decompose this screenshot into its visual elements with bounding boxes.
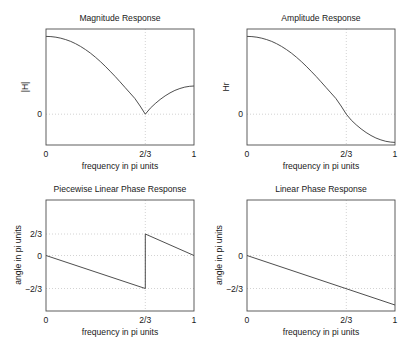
panel-title-magnitude: Magnitude Response (79, 13, 160, 23)
axis-box-piecewise (46, 200, 194, 311)
xtick-label-0-bl: 0 (44, 315, 49, 325)
xtick-label-1-bl: 1 (192, 315, 197, 325)
axis-box-magnitude (46, 29, 194, 145)
panel-title-piecewise: Piecewise Linear Phase Response (54, 184, 187, 194)
figure-canvas: Magnitude Response 0 0 2/3 1 frequency i… (0, 0, 410, 346)
xtick-label-2-3-tl: 2/3 (139, 149, 151, 159)
curve-magnitude (46, 36, 194, 114)
ytick-label-pos-2-3-bl: 2/3 (30, 229, 42, 239)
ytick-label-0-tr: 0 (238, 109, 243, 119)
curve-piecewise-phase-segment-2 (145, 234, 194, 256)
xtick-label-1-tr: 1 (393, 149, 398, 159)
xtick-label-1-tl: 1 (192, 149, 197, 159)
panel-magnitude-response: Magnitude Response 0 0 2/3 1 frequency i… (20, 13, 197, 171)
panel-amplitude-response: Amplitude Response 0 0 2/3 1 frequency i… (221, 13, 398, 171)
ytick-label-0-bl: 0 (37, 251, 42, 261)
yaxis-label-br: angle in pi units (214, 225, 224, 285)
ytick-label-0-tl: 0 (37, 109, 42, 119)
axis-box-linear-phase (247, 200, 395, 311)
yaxis-label-bl: angle in pi units (13, 225, 23, 285)
yaxis-label-tr: Hr (221, 82, 231, 91)
ytick-label-neg-2-3-br: −2/3 (226, 284, 243, 294)
xtick-label-0-tl: 0 (44, 149, 49, 159)
panel-linear-phase-response: Linear Phase Response 0 −2/3 0 2/3 1 fre… (214, 184, 398, 337)
xaxis-label-br: frequency in pi units (283, 327, 359, 337)
curve-amplitude (247, 36, 395, 142)
ytick-label-neg-2-3-bl: −2/3 (25, 284, 42, 294)
xtick-label-1-br: 1 (393, 315, 398, 325)
panel-title-amplitude: Amplitude Response (281, 13, 361, 23)
ytick-label-0-br: 0 (238, 251, 243, 261)
yaxis-label-tl: |H| (20, 82, 30, 93)
panel-title-linear-phase: Linear Phase Response (275, 184, 367, 194)
curve-piecewise-phase-segment-1 (46, 256, 145, 289)
xaxis-label-tr: frequency in pi units (283, 161, 359, 171)
xtick-label-0-tr: 0 (245, 149, 250, 159)
xtick-label-2-3-tr: 2/3 (340, 149, 352, 159)
xtick-label-0-br: 0 (245, 315, 250, 325)
xaxis-label-tl: frequency in pi units (82, 161, 158, 171)
xtick-label-2-3-br: 2/3 (340, 315, 352, 325)
axis-box-amplitude (247, 29, 395, 145)
panel-piecewise-linear-phase-response: Piecewise Linear Phase Response 2/3 0 −2… (13, 184, 197, 337)
xaxis-label-bl: frequency in pi units (82, 327, 158, 337)
curve-linear-phase (247, 256, 395, 306)
xtick-label-2-3-bl: 2/3 (139, 315, 151, 325)
